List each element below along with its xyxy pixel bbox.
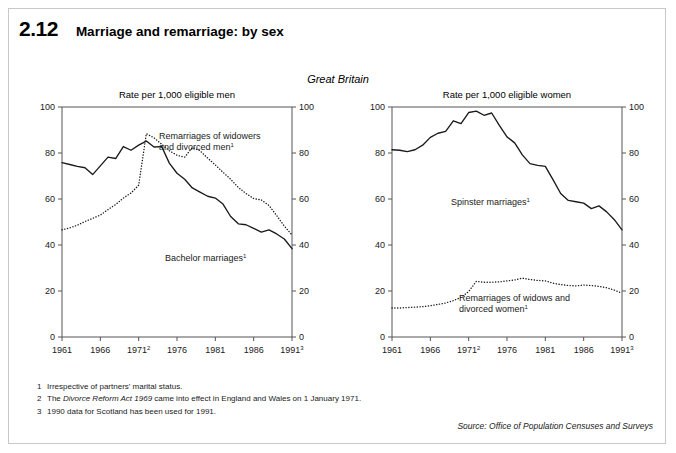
chart-men: 0020204040606080801001001961196619712197…: [17, 101, 337, 369]
y-tick-label-left: 100: [40, 102, 55, 112]
x-tick-label: 19913: [280, 345, 304, 356]
x-tick-label: 1976: [167, 345, 187, 355]
x-tick-label: 1986: [244, 345, 264, 355]
y-tick-label-right: 60: [299, 194, 309, 204]
chart-women: 0020204040606080801001001961196619712197…: [347, 101, 667, 369]
y-tick-label-left: 100: [370, 102, 385, 112]
series-annotation: Remarriages of widows and: [459, 293, 570, 303]
x-tick-label: 1966: [90, 345, 110, 355]
footnote-number: 1: [37, 381, 47, 393]
y-tick-label-right: 80: [629, 148, 639, 158]
series-line-solid: [62, 141, 292, 249]
y-tick-label-left: 60: [375, 194, 385, 204]
y-tick-label-right: 20: [629, 286, 639, 296]
y-tick-label-left: 60: [45, 194, 55, 204]
region-label: Great Britain: [9, 73, 667, 85]
chart-caption-men: Rate per 1,000 eligible men: [21, 89, 333, 100]
y-tick-label-left: 0: [50, 332, 55, 342]
series-annotation: Remarriages of widowers: [159, 131, 261, 141]
y-tick-label-right: 0: [299, 332, 304, 342]
y-tick-label-left: 20: [45, 286, 55, 296]
x-tick-label: 1961: [52, 345, 72, 355]
y-tick-label-right: 100: [629, 102, 644, 112]
figure-header: 2.12 Marriage and remarriage: by sex: [19, 17, 284, 41]
series-annotation: Bachelor marriages1: [165, 253, 247, 264]
x-tick-label: 19712: [457, 345, 481, 356]
footnote-text: The: [47, 394, 63, 403]
footnote-text: Irrespective of partners' marital status…: [47, 382, 182, 391]
footnote-number: 3: [37, 406, 47, 418]
series-annotation: divorced women1: [459, 304, 529, 315]
x-tick-label: 1976: [497, 345, 517, 355]
y-tick-label-right: 100: [299, 102, 314, 112]
x-tick-label: 1981: [535, 345, 555, 355]
chart-caption-women: Rate per 1,000 eligible women: [351, 89, 663, 100]
x-tick-label: 1966: [420, 345, 440, 355]
x-tick-label: 1981: [205, 345, 225, 355]
y-tick-label-left: 40: [375, 240, 385, 250]
footnote-number: 2: [37, 393, 47, 405]
x-tick-label: 1961: [382, 345, 402, 355]
footnote-item: 31990 data for Scotland has been used fo…: [37, 406, 361, 418]
footnotes: 1Irrespective of partners' marital statu…: [37, 381, 361, 418]
x-tick-label: 1986: [574, 345, 594, 355]
series-annotation: and divorced men1: [159, 142, 235, 153]
footnote-text: came into effect in England and Wales on…: [152, 394, 361, 403]
y-tick-label-right: 20: [299, 286, 309, 296]
series-line-solid: [392, 111, 622, 230]
y-tick-label-left: 80: [375, 148, 385, 158]
y-tick-label-left: 40: [45, 240, 55, 250]
figure-number: 2.12: [19, 17, 58, 41]
y-tick-label-right: 60: [629, 194, 639, 204]
y-tick-label-left: 0: [380, 332, 385, 342]
footnote-item: 1Irrespective of partners' marital statu…: [37, 381, 361, 393]
footnote-text: 1990 data for Scotland has been used for…: [47, 407, 216, 416]
y-tick-label-left: 20: [375, 286, 385, 296]
y-tick-label-right: 40: [629, 240, 639, 250]
series-annotation: Spinster marriages1: [451, 197, 531, 208]
y-tick-label-left: 80: [45, 148, 55, 158]
y-tick-label-right: 80: [299, 148, 309, 158]
x-tick-label: 19712: [127, 345, 151, 356]
source-note: Source: Office of Population Censuses an…: [457, 421, 653, 431]
footnote-text-italic: Divorce Reform Act 1969: [63, 394, 152, 403]
page-title: Marriage and remarriage: by sex: [76, 24, 284, 39]
x-tick-label: 19913: [610, 345, 634, 356]
footnote-item: 2The Divorce Reform Act 1969 came into e…: [37, 393, 361, 405]
y-tick-label-right: 40: [299, 240, 309, 250]
figure-frame: 2.12 Marriage and remarriage: by sex Gre…: [8, 8, 666, 444]
y-tick-label-right: 0: [629, 332, 634, 342]
